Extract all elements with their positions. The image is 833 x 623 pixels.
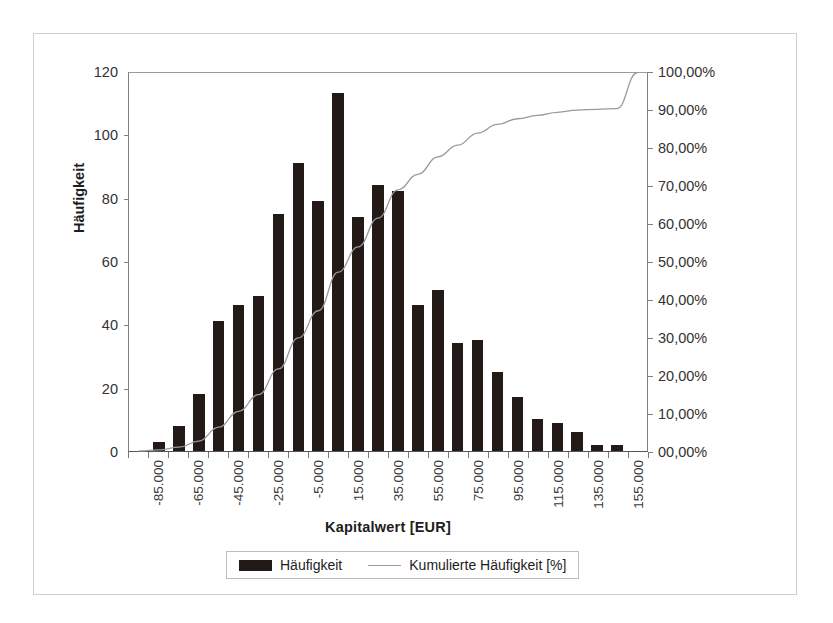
x-axis-tick — [528, 452, 529, 458]
y-axis-right-tick — [648, 300, 653, 301]
y-axis-right-labels: 00,00%10,00%20,00%30,00%40,00%50,00%60,0… — [658, 72, 748, 452]
cumulative-line-series — [129, 73, 647, 451]
x-axis-tick — [548, 452, 549, 458]
x-axis-tick-label: -65.000 — [191, 460, 206, 506]
x-axis-tick — [188, 452, 189, 458]
x-axis-tick-label: 95.000 — [511, 460, 526, 501]
y-axis-right-tick — [648, 224, 653, 225]
y-axis-right-tick-label: 00,00% — [658, 444, 707, 460]
x-axis-tick — [388, 452, 389, 458]
x-axis-tick-label: -45.000 — [231, 460, 246, 506]
x-axis-tick — [308, 452, 309, 458]
y-axis-right-tick — [648, 262, 653, 263]
x-axis-tick — [448, 452, 449, 458]
x-axis-tick — [208, 452, 209, 458]
y-axis-left-tick-label: 100 — [94, 127, 118, 143]
y-axis-right-tick-label: 80,00% — [658, 140, 707, 156]
y-axis-right-tick — [648, 414, 653, 415]
cumulative-line-path — [139, 73, 637, 451]
x-axis-tick — [148, 452, 149, 458]
x-axis-tick-label: 75.000 — [471, 460, 486, 501]
x-axis-tick — [128, 452, 129, 458]
x-axis-title: Kapitalwert [EUR] — [128, 519, 648, 535]
y-axis-right-tick — [648, 376, 653, 377]
x-axis-tick — [568, 452, 569, 458]
x-axis-tick-label: 35.000 — [391, 460, 406, 501]
legend-label: Kumulierte Häufigkeit [%] — [409, 557, 566, 573]
x-axis-tick-label: -85.000 — [151, 460, 166, 506]
x-axis-tick — [268, 452, 269, 458]
x-axis-tick-label: 55.000 — [431, 460, 446, 501]
x-axis-tick — [408, 452, 409, 458]
y-axis-right-tick-label: 20,00% — [658, 368, 707, 384]
y-axis-right-tick — [648, 110, 653, 111]
legend-item-kumulierte-haeufigkeit: Kumulierte Häufigkeit [%] — [368, 557, 566, 573]
x-axis-tick — [588, 452, 589, 458]
x-axis-tick — [288, 452, 289, 458]
y-axis-left-tick-label: 0 — [110, 444, 118, 460]
chart-legend: Häufigkeit Kumulierte Häufigkeit [%] — [226, 551, 579, 579]
x-axis-tick-label: 155.000 — [631, 460, 646, 509]
y-axis-left-tick-label: 20 — [102, 381, 118, 397]
x-axis-tick — [428, 452, 429, 458]
y-axis-left-tick-label: 120 — [94, 64, 118, 80]
y-axis-right-tick — [648, 72, 653, 73]
y-axis-right-tick — [648, 186, 653, 187]
x-axis-tick — [228, 452, 229, 458]
x-axis-tick-label: -25.000 — [271, 460, 286, 506]
x-axis-tick — [248, 452, 249, 458]
y-axis-left-labels: 020406080100120 — [72, 72, 118, 452]
y-axis-left-tick-label: 40 — [102, 317, 118, 333]
x-axis-tick — [328, 452, 329, 458]
y-axis-right-tick-label: 100,00% — [658, 64, 715, 80]
y-axis-right-tick-label: 40,00% — [658, 292, 707, 308]
y-axis-right-tick-label: 10,00% — [658, 406, 707, 422]
x-axis-tick — [628, 452, 629, 458]
x-axis-tick — [348, 452, 349, 458]
y-axis-right-tick-label: 30,00% — [658, 330, 707, 346]
x-axis-tick — [468, 452, 469, 458]
chart-figure: Häufigkeit 020406080100120 00,00%10,00%2… — [0, 0, 833, 623]
x-axis-tick — [648, 452, 649, 458]
legend-line-swatch-icon — [368, 565, 401, 566]
y-axis-right-tick-label: 70,00% — [658, 178, 707, 194]
y-axis-right-tick — [648, 148, 653, 149]
plot-area — [128, 72, 648, 452]
x-axis-tick-label: 115.000 — [551, 460, 566, 508]
x-axis-tick-label: 135.000 — [591, 460, 606, 509]
x-axis-ticks — [128, 452, 648, 460]
y-axis-right-tick — [648, 338, 653, 339]
x-axis-labels: -85.000-65.000-45.000-25.000-5.00015.000… — [128, 460, 648, 522]
y-axis-right-tick-label: 60,00% — [658, 216, 707, 232]
y-axis-right-ticks — [648, 72, 649, 452]
y-axis-left-tick-label: 60 — [102, 254, 118, 270]
x-axis-tick-label: 15.000 — [351, 460, 366, 501]
x-axis-tick — [368, 452, 369, 458]
x-axis-tick-label: -5.000 — [311, 460, 326, 498]
x-axis-tick — [608, 452, 609, 458]
y-axis-right-tick-label: 90,00% — [658, 102, 707, 118]
y-axis-right-tick-label: 50,00% — [658, 254, 707, 270]
x-axis-tick — [508, 452, 509, 458]
legend-item-haeufigkeit: Häufigkeit — [239, 557, 342, 573]
legend-bar-swatch-icon — [239, 560, 272, 571]
x-axis-tick — [168, 452, 169, 458]
legend-label: Häufigkeit — [280, 557, 342, 573]
x-axis-tick — [488, 452, 489, 458]
y-axis-left-tick-label: 80 — [102, 191, 118, 207]
